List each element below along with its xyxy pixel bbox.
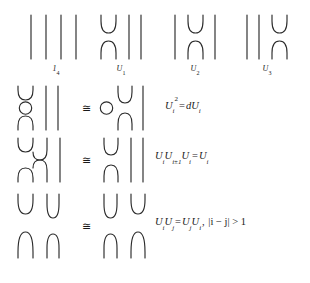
identity-diagram (26, 12, 86, 62)
congruence-symbol-1: ≅ (82, 102, 91, 115)
relation-commuting-lhs-diagram (14, 192, 72, 260)
relation-commuting-rhs-diagram (100, 192, 158, 260)
relation-commuting: ≅ UiUj=UjUi, |i − j| > 1 (0, 192, 310, 264)
generator-u2: U2 (170, 12, 220, 78)
relation-idempotent-lhs-diagram (14, 84, 72, 132)
u3-diagram (242, 12, 292, 62)
congruence-symbol-3: ≅ (82, 220, 91, 233)
generator-u3: U3 (242, 12, 292, 78)
relation-braid-like: ≅ UiUi±1Ui=Ui (0, 136, 310, 184)
u3-caption: U3 (242, 64, 292, 75)
equation-braid-like: UiUi±1Ui=Ui (155, 150, 208, 164)
u1-caption: U1 (96, 64, 146, 75)
commuting-condition: |i − j| > 1 (208, 216, 246, 227)
figure-canvas: 14 U1 (0, 0, 310, 283)
generator-u1: U1 (96, 12, 146, 78)
generator-identity: 14 (26, 12, 86, 78)
u2-caption: U2 (170, 64, 220, 75)
equation-idempotent: Ui2=dUi (165, 98, 201, 114)
equation-commuting: UiUj=UjUi, |i − j| > 1 (155, 216, 246, 230)
congruence-symbol-2: ≅ (82, 154, 91, 167)
generator-row: 14 U1 (0, 12, 310, 78)
relation-braid-lhs-diagram (14, 136, 72, 184)
relation-idempotent-rhs-diagram (100, 84, 148, 132)
u2-diagram (170, 12, 220, 62)
relation-idempotent: ≅ Ui2=dUi (0, 84, 310, 132)
u1-diagram (96, 12, 146, 62)
identity-caption: 14 (26, 64, 86, 75)
relation-braid-rhs-diagram (100, 136, 148, 184)
